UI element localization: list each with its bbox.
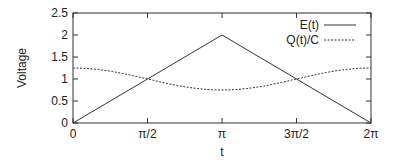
y-tick-label: 2.5 [51, 6, 68, 20]
plot-border [73, 13, 371, 123]
legend-label: Q(t)/C [286, 33, 319, 47]
x-tick-label: π/2 [138, 127, 157, 141]
legend-label: E(t) [300, 18, 319, 32]
x-tick-label: π [218, 127, 226, 141]
x-tick-label: 2π [364, 127, 379, 141]
y-tick-label: 0 [61, 116, 68, 130]
legend: E(t)Q(t)/C [286, 18, 356, 47]
line-chart: 0π/2π3π/22π00.511.522.5 E(t)Q(t)/C t Vol… [0, 0, 397, 163]
y-axis-title: Voltage [15, 48, 29, 88]
x-tick-label: 3π/2 [284, 127, 309, 141]
series-group [73, 35, 371, 123]
y-tick-label: 1.5 [51, 50, 68, 64]
plot-frame [73, 13, 371, 123]
x-tick-label: 0 [70, 127, 77, 141]
series-qtc [73, 68, 371, 90]
y-tick-label: 1 [61, 72, 68, 86]
x-axis-title: t [220, 145, 224, 159]
y-tick-label: 2 [61, 28, 68, 42]
series-et [73, 35, 371, 123]
axis-ticks: 0π/2π3π/22π00.511.522.5 [51, 6, 378, 141]
y-tick-label: 0.5 [51, 94, 68, 108]
